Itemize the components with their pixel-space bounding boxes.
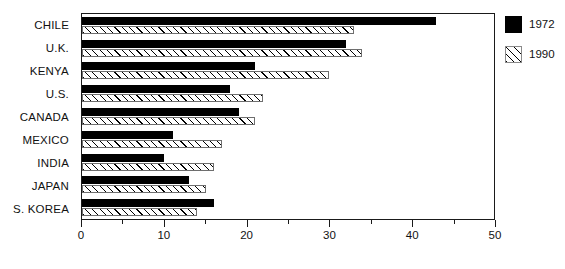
category-label: U.K. [0,36,75,59]
bar-1990 [82,185,206,193]
category-label: INDIA [0,151,75,174]
legend-item-1972: 1972 [505,13,565,35]
bar-1972 [82,154,164,162]
bar-1990 [82,140,222,148]
plot-area [81,13,495,220]
x-tick-label: 0 [78,229,84,241]
x-tick-label: 40 [406,229,419,241]
bar-1972 [82,108,239,116]
axis-tick [122,220,123,224]
bar-group [82,151,494,174]
bar-group [82,173,494,196]
legend-item-1990: 1990 [505,43,565,65]
axis-tick [81,220,82,227]
x-axis-ticks [81,220,495,227]
bar-group [82,82,494,105]
category-label: CANADA [0,105,75,128]
bar-chart: CHILE U.K. KENYA U.S. CANADA MEXICO INDI… [0,0,565,269]
bar-1972 [82,40,346,48]
x-tick-label: 50 [489,229,502,241]
bar-1990 [82,49,362,57]
axis-tick [454,220,455,224]
solid-black-swatch-icon [505,16,522,33]
bar-1972 [82,176,189,184]
x-axis-labels: 01020304050 [81,229,495,249]
bar-1990 [82,26,354,34]
category-label: CHILE [0,13,75,36]
legend: 1972 1990 [505,13,565,73]
bar-group [82,14,494,37]
category-label: JAPAN [0,174,75,197]
axis-tick [247,220,248,227]
x-tick-label: 30 [323,229,336,241]
axis-tick [371,220,372,224]
category-label: MEXICO [0,128,75,151]
bar-1990 [82,71,329,79]
axis-tick [495,220,496,227]
category-label: U.S. [0,82,75,105]
axis-tick [329,220,330,227]
category-label: KENYA [0,59,75,82]
bar-1972 [82,199,214,207]
legend-label: 1990 [529,48,555,60]
bar-group [82,196,494,219]
hatched-swatch-icon [505,46,522,63]
axis-tick [164,220,165,227]
bars-container [82,14,494,219]
bar-1990 [82,94,263,102]
axis-tick [412,220,413,227]
bar-1972 [82,62,255,70]
category-axis: CHILE U.K. KENYA U.S. CANADA MEXICO INDI… [0,13,75,220]
bar-group [82,128,494,151]
bar-1972 [82,17,436,25]
x-tick-label: 20 [240,229,253,241]
bar-group [82,60,494,83]
bar-1990 [82,117,255,125]
category-label: S. KOREA [0,197,75,220]
x-tick-label: 10 [157,229,170,241]
bar-1972 [82,85,230,93]
bar-group [82,105,494,128]
legend-label: 1972 [529,18,555,30]
bar-1990 [82,208,197,216]
axis-tick [205,220,206,224]
bar-1972 [82,131,173,139]
bar-1990 [82,163,214,171]
axis-tick [288,220,289,224]
bar-group [82,37,494,60]
